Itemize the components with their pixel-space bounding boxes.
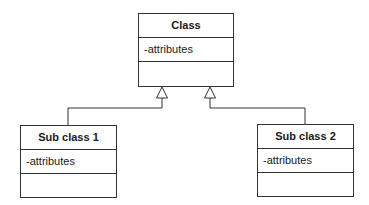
class-operations [139, 62, 233, 84]
hollow-triangle-arrowhead-icon [205, 87, 216, 98]
class-name: Sub class 1 [21, 126, 116, 150]
class-name: Sub class 2 [258, 125, 353, 149]
class-attributes: -attributes [139, 38, 233, 62]
class-attributes: -attributes [21, 150, 116, 174]
generalization-arrow-sub-class-1 [68, 87, 168, 125]
class-box-sub-class-1[interactable]: Sub class 1 -attributes [20, 125, 117, 198]
connector-line-left [68, 98, 162, 125]
hollow-triangle-arrowhead-icon [157, 87, 168, 98]
class-operations [21, 174, 116, 196]
class-box-superclass[interactable]: Class -attributes [138, 13, 234, 87]
uml-diagram-canvas: Class -attributes Sub class 1 -attribute… [0, 0, 369, 205]
class-box-sub-class-2[interactable]: Sub class 2 -attributes [257, 124, 354, 197]
class-operations [258, 173, 353, 195]
class-attributes: -attributes [258, 149, 353, 173]
connector-line-right [210, 98, 305, 124]
generalization-arrow-sub-class-2 [205, 87, 306, 124]
class-name: Class [139, 14, 233, 38]
